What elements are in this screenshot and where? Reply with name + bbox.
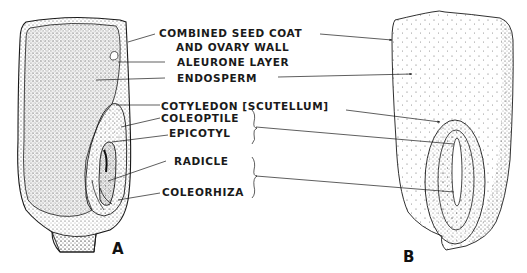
label-seed-coat-line2: AND OVARY WALL — [176, 41, 289, 53]
label-cotyledon: COTYLEDON [SCUTELLUM] — [161, 100, 329, 112]
panel-a-section — [18, 17, 131, 252]
label-epicotyl: EPICOTYL — [169, 127, 231, 139]
label-endosperm: ENDOSPERM — [177, 72, 257, 84]
label-coleorhiza: COLEORHIZA — [162, 186, 244, 198]
label-seed-coat-line1: COMBINED SEED COAT — [159, 27, 302, 39]
label-aleurone: ALEURONE LAYER — [177, 56, 289, 68]
label-radicle: RADICLE — [174, 155, 229, 167]
label-coleoptile: COLEOPTILE — [161, 112, 239, 124]
embryo-slot-b — [452, 138, 462, 206]
panel-label-a: A — [112, 240, 124, 258]
panel-b-external — [392, 11, 513, 250]
panel-label-b: B — [403, 248, 414, 266]
